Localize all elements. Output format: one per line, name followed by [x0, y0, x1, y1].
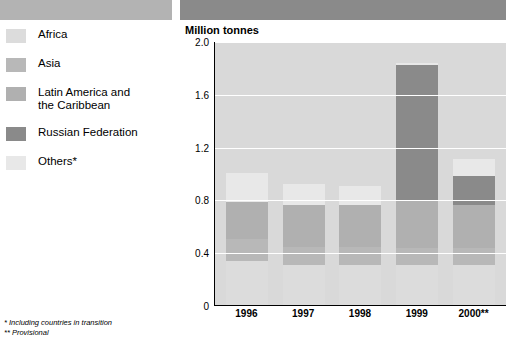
- bar-segment: [226, 202, 268, 239]
- legend-label-latin-america: Latin America and the Caribbean: [38, 86, 130, 112]
- plot-region: [214, 42, 506, 306]
- gridline: [215, 200, 506, 201]
- legend-swatch-africa: [6, 29, 26, 43]
- y-axis-tick-label: 2.0: [195, 37, 209, 48]
- footnote-1: * Including countries in transition: [4, 318, 112, 328]
- legend-label-asia: Asia: [38, 57, 60, 70]
- bar-segment: [396, 248, 438, 265]
- gridline: [215, 42, 506, 43]
- y-axis: 00.40.81.21.62.0: [180, 42, 214, 306]
- footnotes: * Including countries in transition ** P…: [4, 318, 112, 338]
- bar-column: [339, 186, 381, 305]
- legend-swatch-latin-america: [6, 87, 26, 101]
- legend-item-latin-america: Latin America and the Caribbean: [0, 86, 178, 112]
- bar-segment: [396, 201, 438, 249]
- legend-swatch-asia: [6, 58, 26, 72]
- legend-label-others: Others*: [38, 155, 77, 168]
- bar-segment: [339, 186, 381, 204]
- bar-segment: [226, 261, 268, 305]
- legend-item-others: Others*: [0, 155, 178, 170]
- y-axis-tick-label: 0: [203, 301, 209, 312]
- bar-series-container: [215, 42, 506, 305]
- bar-segment: [226, 173, 268, 202]
- y-axis-tick-label: 1.2: [195, 142, 209, 153]
- bar-segment: [283, 247, 325, 265]
- bar-segment: [396, 65, 438, 201]
- bar-column: [226, 173, 268, 305]
- gridline: [215, 148, 506, 149]
- bar-column: [283, 184, 325, 305]
- bar-segment: [453, 248, 495, 265]
- x-axis-tick-label: 1999: [396, 308, 438, 319]
- bar-segment: [283, 205, 325, 247]
- chart-legend: Africa Asia Latin America and the Caribb…: [0, 28, 178, 184]
- bar-segment: [453, 159, 495, 176]
- legend-swatch-russian-federation: [6, 127, 26, 141]
- chart-axis-unit-title: Million tonnes: [185, 24, 259, 36]
- gridline: [215, 95, 506, 96]
- legend-label-russian-federation: Russian Federation: [38, 126, 138, 139]
- bar-segment: [339, 247, 381, 265]
- bar-column: [396, 63, 438, 305]
- x-axis-tick-label: 1998: [339, 308, 381, 319]
- bar-segment: [339, 265, 381, 305]
- legend-item-asia: Asia: [0, 57, 178, 72]
- y-axis-tick-label: 0.8: [195, 195, 209, 206]
- chart-area: 00.40.81.21.62.0 19961997199819992000**: [180, 42, 506, 332]
- legend-top-bar: [0, 0, 172, 20]
- x-axis-tick-label: 1996: [225, 308, 267, 319]
- y-axis-tick-label: 0.4: [195, 248, 209, 259]
- legend-item-africa: Africa: [0, 28, 178, 43]
- bar-segment: [453, 205, 495, 249]
- bar-segment: [339, 205, 381, 247]
- x-axis-tick-label: 2000**: [453, 308, 495, 319]
- chart-top-bar: [180, 0, 506, 20]
- bar-column: [453, 159, 495, 305]
- gridline: [215, 253, 506, 254]
- footnote-2: ** Provisional: [4, 328, 112, 338]
- x-axis-tick-label: 1997: [282, 308, 324, 319]
- y-axis-tick-label: 1.6: [195, 89, 209, 100]
- legend-label-africa: Africa: [38, 28, 67, 41]
- bar-segment: [396, 265, 438, 305]
- bar-segment: [226, 239, 268, 261]
- bar-segment: [453, 265, 495, 305]
- x-axis: 19961997199819992000**: [214, 308, 506, 319]
- bar-segment: [283, 184, 325, 205]
- bar-segment: [283, 265, 325, 305]
- legend-swatch-others: [6, 156, 26, 170]
- legend-item-russian-federation: Russian Federation: [0, 126, 178, 141]
